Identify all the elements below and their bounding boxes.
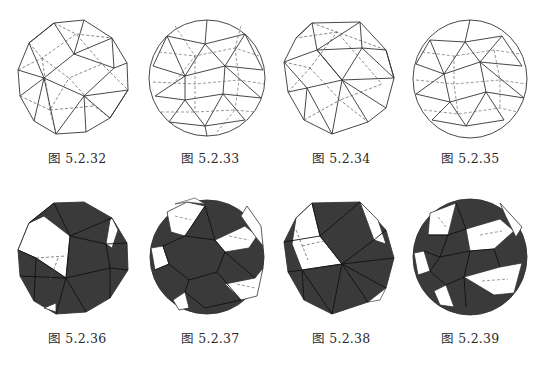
figure-5-2-36 (14, 198, 134, 316)
figure-caption: 图 5.2.35 (441, 148, 499, 167)
polyhedron-wireframe-icon (410, 18, 530, 140)
figure-caption: 图 5.2.36 (48, 328, 106, 347)
polyhedron-shaded-icon (14, 198, 134, 316)
polyhedron-shaded-icon (145, 196, 269, 318)
figure-caption: 图 5.2.33 (181, 148, 239, 167)
figure-5-2-35 (410, 18, 530, 140)
figure-caption: 图 5.2.37 (181, 328, 239, 347)
figure-5-2-39 (410, 197, 530, 317)
polyhedron-wireframe-icon (14, 18, 134, 138)
polyhedron-shaded-icon (410, 197, 530, 317)
cropped-text-fragment (0, 0, 540, 6)
figure-5-2-34 (282, 20, 402, 138)
figure-caption: 图 5.2.34 (312, 148, 370, 167)
figure-5-2-37 (145, 196, 269, 318)
figure-5-2-38 (282, 200, 402, 316)
polyhedron-wireframe-icon (145, 16, 269, 140)
figure-5-2-33 (145, 16, 269, 140)
polyhedron-wireframe-icon (282, 20, 402, 138)
figure-5-2-32 (14, 18, 134, 138)
polyhedron-shaded-icon (282, 200, 402, 316)
figure-caption: 图 5.2.38 (312, 328, 370, 347)
figure-caption: 图 5.2.32 (48, 148, 106, 167)
figure-caption: 图 5.2.39 (441, 328, 499, 347)
